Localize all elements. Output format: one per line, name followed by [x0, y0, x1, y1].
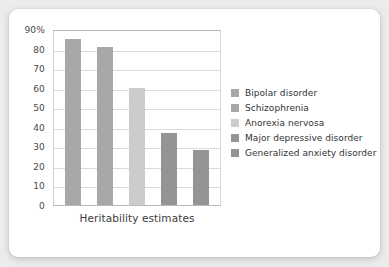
y-axis: 90%80706050403020100 [9, 30, 49, 206]
legend-item: Schizophrenia [231, 102, 379, 113]
legend-swatch-icon [231, 104, 239, 112]
bar-chart-figure: 90%80706050403020100 Heritability estima… [9, 9, 380, 257]
bar [65, 39, 81, 205]
legend-item-label: Bipolar disorder [245, 88, 317, 98]
bar-series [54, 31, 220, 205]
legend-swatch-icon [231, 149, 239, 157]
y-axis-tick-label: 70 [33, 64, 45, 74]
legend-swatch-icon [231, 134, 239, 142]
chart-card: 90%80706050403020100 Heritability estima… [9, 9, 380, 257]
bar [97, 47, 113, 205]
legend-swatch-icon [231, 89, 239, 97]
legend-item: Bipolar disorder [231, 87, 379, 98]
y-axis-tick-label: 40 [33, 123, 45, 133]
legend-item-label: Schizophrenia [245, 103, 309, 113]
y-axis-tick-label: 90% [24, 25, 45, 35]
chart-legend: Bipolar disorderSchizophreniaAnorexia ne… [231, 87, 379, 163]
legend-item-label: Major depressive disorder [245, 133, 363, 143]
y-axis-tick-label: 60 [33, 84, 45, 94]
legend-item: Anorexia nervosa [231, 117, 379, 128]
bar [129, 88, 145, 205]
x-axis-label: Heritability estimates [53, 212, 221, 224]
bar [193, 150, 209, 205]
plot-area [53, 30, 221, 206]
y-axis-tick-label: 50 [33, 103, 45, 113]
y-axis-tick-label: 30 [33, 142, 45, 152]
y-axis-tick-label: 20 [33, 162, 45, 172]
y-axis-tick-label: 10 [33, 181, 45, 191]
legend-item: Major depressive disorder [231, 133, 379, 144]
bar [161, 133, 177, 205]
y-axis-tick-label: 80 [33, 45, 45, 55]
y-axis-tick-label: 0 [39, 201, 45, 211]
legend-item-label: Anorexia nervosa [245, 118, 324, 128]
legend-item: Generalized anxiety disorder [231, 148, 379, 159]
legend-swatch-icon [231, 119, 239, 127]
page-background: 90%80706050403020100 Heritability estima… [0, 0, 389, 267]
legend-item-label: Generalized anxiety disorder [245, 148, 376, 158]
